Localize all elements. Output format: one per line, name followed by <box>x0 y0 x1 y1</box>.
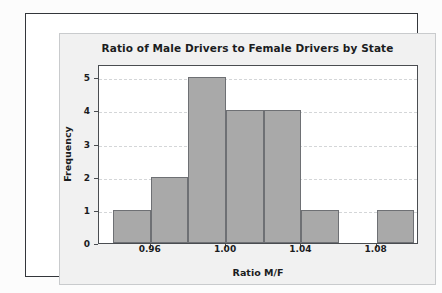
y-tick-mark <box>94 211 98 212</box>
y-tick-label: 1 <box>68 206 90 216</box>
x-tick-label: 1.04 <box>280 244 320 254</box>
histogram-bar <box>113 210 151 243</box>
y-tick-mark <box>94 244 98 245</box>
chart-title: Ratio of Male Drivers to Female Drivers … <box>59 42 436 54</box>
y-tick-label: 3 <box>68 140 90 150</box>
y-tick-label: 0 <box>68 239 90 249</box>
x-tick-label: 1.08 <box>356 244 396 254</box>
y-tick-mark <box>94 178 98 179</box>
y-tick-label: 4 <box>68 106 90 116</box>
gridline <box>99 79 417 80</box>
histogram-bar <box>377 210 415 243</box>
histogram-bar <box>188 77 226 243</box>
x-tick-label: 0.96 <box>130 244 170 254</box>
histogram-bar <box>151 177 189 243</box>
page-background: Ratio of Male Drivers to Female Drivers … <box>0 0 442 293</box>
plot-inner <box>99 66 417 243</box>
y-tick-label: 2 <box>68 173 90 183</box>
histogram-bar <box>226 110 264 243</box>
x-tick-label: 1.00 <box>205 244 245 254</box>
figure-outer-frame: Ratio of Male Drivers to Female Drivers … <box>25 13 418 277</box>
x-axis-title: Ratio M/F <box>98 267 418 278</box>
plot-area <box>98 65 418 244</box>
histogram-bar <box>264 110 302 243</box>
y-tick-label: 5 <box>68 73 90 83</box>
y-tick-mark <box>94 111 98 112</box>
histogram-bar <box>301 210 339 243</box>
y-tick-mark <box>94 78 98 79</box>
y-tick-mark <box>94 145 98 146</box>
